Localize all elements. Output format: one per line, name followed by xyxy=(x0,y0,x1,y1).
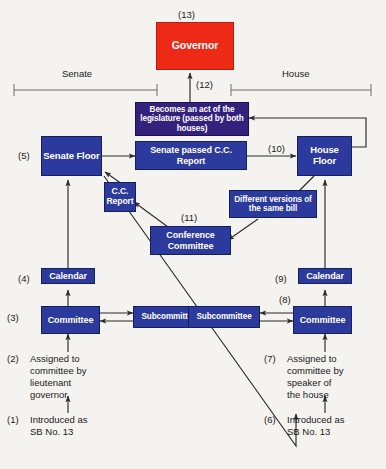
node-number-senate-committee: (3) xyxy=(7,312,19,324)
caption-number-senate-introduced: (1) xyxy=(7,414,19,426)
arrow-versions-to-conference xyxy=(228,219,258,240)
node-number-house-committee: (8) xyxy=(279,294,291,306)
line-housefloor-to-versions xyxy=(299,176,314,191)
house-bracket xyxy=(231,84,371,96)
node-number-house-calendar: (9) xyxy=(275,273,287,285)
node-house-subcommittee[interactable]: Subcommittee xyxy=(188,306,260,328)
node-senate-floor[interactable]: Senate Floor xyxy=(41,136,102,176)
node-senate-committee[interactable]: Committee xyxy=(41,306,100,334)
caption-number-senate-assigned: (2) xyxy=(7,353,19,365)
caption-number-house-introduced: (6) xyxy=(264,414,276,426)
node-senate-calendar[interactable]: Calendar xyxy=(41,268,95,284)
node-senate-passed-cc-report[interactable]: Senate passed C.C. Report xyxy=(135,141,247,170)
node-governor[interactable]: Governor xyxy=(156,22,234,70)
node-house-floor[interactable]: House Floor xyxy=(297,136,352,176)
node-cc-report[interactable]: C.C. Report xyxy=(104,182,136,212)
node-house-committee[interactable]: Committee xyxy=(293,306,352,334)
arrow-conference-to-ccreport xyxy=(134,202,168,227)
senate-bracket xyxy=(14,84,157,96)
node-number-becomes-act: (12) xyxy=(196,79,213,91)
node-number-senate-floor: (5) xyxy=(18,150,30,162)
bill-flowchart: Senate House (13) Governor (12) Becomes … xyxy=(0,0,386,469)
node-number-senate-calendar: (4) xyxy=(18,273,30,285)
node-number-house-floor: (10) xyxy=(268,143,285,155)
caption-house-assigned: Assigned to committee by speaker of the … xyxy=(287,353,379,402)
node-number-governor: (13) xyxy=(178,9,195,21)
caption-number-house-assigned: (7) xyxy=(264,353,276,365)
node-becomes-act[interactable]: Becomes an act of the legislature (passe… xyxy=(135,102,249,136)
node-conference-committee[interactable]: Conference Committee xyxy=(150,226,231,255)
node-different-versions[interactable]: Different versions of the same bill xyxy=(229,190,317,218)
bracket-label-house: House xyxy=(282,68,309,79)
node-number-conference-committee: (11) xyxy=(181,212,197,224)
node-house-calendar[interactable]: Calendar xyxy=(298,268,352,284)
caption-house-introduced: Introduced as SB No. 13 xyxy=(287,414,386,438)
caption-senate-introduced: Introduced as SB No. 13 xyxy=(30,414,130,438)
bracket-label-senate: Senate xyxy=(62,68,92,79)
caption-senate-assigned: Assigned to committee by lieutenant gove… xyxy=(30,353,120,402)
